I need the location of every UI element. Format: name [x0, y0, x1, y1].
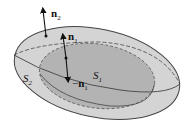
nested-surfaces-diagram: n2 n1 −n1 S1 S2: [0, 0, 194, 132]
n2-label: n2: [51, 7, 61, 22]
